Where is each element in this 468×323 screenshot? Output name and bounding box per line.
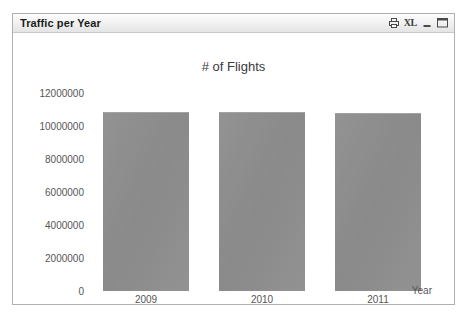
y-axis-tick-label: 4000000 (45, 219, 84, 230)
y-axis: 0200000040000006000000800000010000000120… (16, 93, 84, 291)
x-axis-tick-label: 2010 (251, 294, 273, 305)
plot-area: 0200000040000006000000800000010000000120… (88, 93, 436, 291)
print-icon[interactable] (389, 18, 399, 28)
y-axis-tick-label: 12000000 (40, 88, 85, 99)
maximize-button[interactable] (437, 18, 448, 28)
x-axis: 200920102011 (88, 291, 436, 311)
window-titlebar: Traffic per Year XL (13, 14, 454, 33)
window-title: Traffic per Year (20, 17, 101, 29)
chart-body: # of Flights 020000004000000600000080000… (13, 33, 454, 304)
x-axis-title: Year (412, 285, 432, 296)
y-axis-tick-label: 8000000 (45, 153, 84, 164)
y-axis-tick-label: 2000000 (45, 253, 84, 264)
minimize-button[interactable] (422, 18, 432, 28)
bar[interactable] (219, 112, 305, 291)
x-axis-tick-label: 2011 (367, 294, 389, 305)
titlebar-button-group: XL (389, 18, 450, 28)
chart-title: # of Flights (13, 59, 454, 74)
bar[interactable] (335, 113, 421, 291)
chart-window: Traffic per Year XL (12, 13, 455, 305)
bar-series (88, 93, 436, 291)
y-axis-tick-label: 6000000 (45, 187, 84, 198)
y-axis-tick-label: 0 (78, 286, 84, 297)
bar[interactable] (103, 112, 189, 291)
y-axis-tick-label: 10000000 (40, 120, 85, 131)
x-axis-tick-label: 2009 (135, 294, 157, 305)
export-excel-button[interactable]: XL (404, 18, 417, 28)
